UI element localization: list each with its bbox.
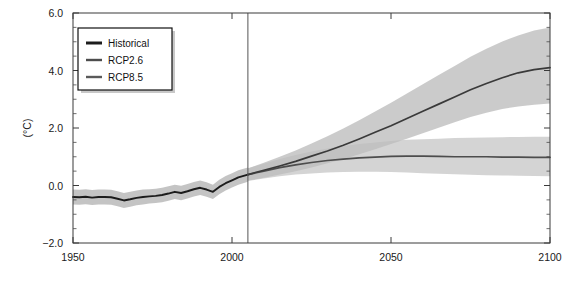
- y-axis-title: (°C): [21, 119, 33, 138]
- x-tick-label: 1950: [61, 251, 85, 263]
- legend-label-historical: Historical: [108, 38, 149, 49]
- y-tick-label: 6.0: [48, 7, 63, 19]
- chart-legend: HistoricalRCP2.6RCP8.5: [78, 28, 175, 93]
- y-tick-label: 4.0: [48, 65, 63, 77]
- y-axis-title-text: (°C): [21, 119, 33, 138]
- x-tick-label: 2050: [379, 251, 403, 263]
- y-tick-label: 0.0: [48, 180, 63, 192]
- x-tick-label: 2100: [538, 251, 562, 263]
- temperature-anomaly-chart: 1950200020502100 −2.00.02.04.06.0 (°C) H…: [0, 0, 571, 282]
- climate-projection-figure: 1950200020502100 −2.00.02.04.06.0 (°C) H…: [0, 0, 571, 282]
- legend-label-rcp2-6: RCP2.6: [108, 55, 143, 66]
- y-tick-label: −2.0: [42, 237, 63, 249]
- y-tick-label: 2.0: [48, 122, 63, 134]
- x-tick-label: 2000: [220, 251, 244, 263]
- legend-label-rcp8-5: RCP8.5: [108, 72, 143, 83]
